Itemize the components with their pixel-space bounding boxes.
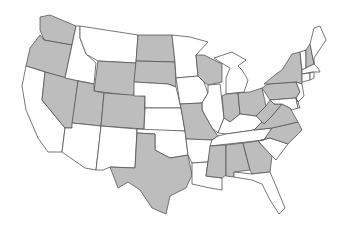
state-north-dakota[interactable] xyxy=(136,35,175,62)
state-wyoming[interactable] xyxy=(94,61,136,96)
state-pennsylvania[interactable] xyxy=(262,82,300,100)
state-new-york[interactable] xyxy=(264,52,302,84)
state-rhode-island[interactable] xyxy=(310,72,314,80)
state-arizona[interactable] xyxy=(62,123,101,170)
state-kansas[interactable] xyxy=(144,108,185,131)
state-florida[interactable] xyxy=(234,172,285,214)
state-connecticut[interactable] xyxy=(302,73,310,82)
us-map xyxy=(0,0,343,226)
state-colorado[interactable] xyxy=(101,93,145,129)
state-new-mexico[interactable] xyxy=(96,126,137,170)
